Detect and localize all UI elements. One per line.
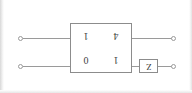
output-terminal-top [171, 36, 176, 41]
z-element-block: Z [139, 59, 158, 73]
matrix-cell-r1c1: 1 [71, 24, 101, 48]
output-terminal-bottom [171, 64, 176, 69]
figure-canvas: 1 0 4 1 Z [0, 0, 192, 93]
wire-output-bottom-left [132, 66, 139, 67]
z-element-label: Z [146, 62, 152, 71]
scan-edge-left [0, 0, 4, 93]
matrix-cell-r2c2: 1 [101, 48, 131, 72]
matrix-cell-r1c2: 4 [101, 24, 131, 48]
matrix-grid: 1 0 4 1 [71, 24, 131, 72]
wire-output-bottom-right [158, 66, 172, 67]
scan-edge-right [189, 0, 192, 93]
matrix-cell-r2c1: 0 [71, 48, 101, 72]
wire-input-top [23, 38, 70, 39]
wire-input-bottom [23, 66, 70, 67]
transmission-matrix-block: 1 0 4 1 [70, 23, 132, 73]
scan-edge-bottom [0, 90, 192, 93]
wire-output-top [132, 38, 172, 39]
